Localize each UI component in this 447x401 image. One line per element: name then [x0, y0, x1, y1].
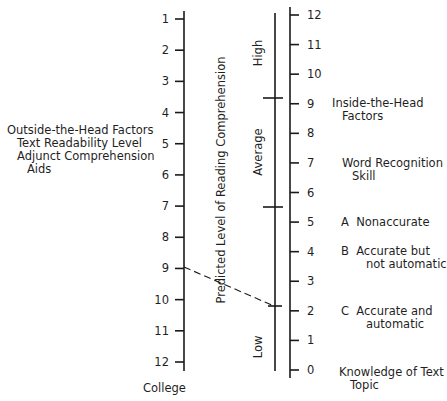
- band-high-label: High: [251, 38, 265, 68]
- level-b-text-1: Accurate but: [356, 244, 430, 258]
- level-b-line-2: not automatic: [366, 258, 447, 271]
- right-tick-label: 3: [307, 274, 314, 288]
- left-tick-label: 7: [162, 199, 169, 213]
- band-low-label: Low: [251, 332, 265, 362]
- middle-axis-title: Predicted Level of Reading Comprehension: [214, 55, 228, 305]
- right-tick-label: 5: [307, 215, 314, 229]
- left-tick-label: 3: [162, 74, 169, 88]
- left-tick-label: 12: [154, 355, 169, 369]
- left-tick-label: 9: [162, 261, 169, 275]
- left-tick-label: 11: [154, 324, 169, 338]
- level-a-letter: A: [341, 215, 349, 229]
- level-a-text: Nonaccurate: [356, 215, 429, 229]
- left-tick-label: 8: [162, 230, 169, 244]
- right-tick-label: 7: [307, 156, 314, 170]
- right-tick-label: 4: [307, 245, 314, 259]
- level-b-letter: B: [341, 244, 349, 258]
- level-c-line-2: automatic: [366, 318, 424, 331]
- right-tick-label: 0: [307, 363, 314, 377]
- right-title-line-2: Factors: [342, 110, 383, 123]
- level-c-text-1: Accurate and: [356, 304, 432, 318]
- right-tick-label: 1: [307, 333, 314, 347]
- left-tick-label: 5: [162, 137, 169, 151]
- example-dashed-line: [184, 267, 274, 306]
- right-tick-label: 11: [307, 38, 322, 52]
- level-c-letter: C: [341, 304, 349, 318]
- left-axis-ticks: 123456789101112: [154, 12, 184, 369]
- right-tick-label: 12: [307, 8, 322, 22]
- left-tick-label: 6: [162, 168, 169, 182]
- right-tick-label: 2: [307, 304, 314, 318]
- right-tick-label: 9: [307, 97, 314, 111]
- left-tick-label: 1: [162, 12, 169, 26]
- right-tick-label: 8: [307, 126, 314, 140]
- left-tick-label: 4: [162, 106, 169, 120]
- right-tick-label: 6: [307, 186, 314, 200]
- word-recognition-line-2: Skill: [352, 170, 376, 183]
- right-axis-ticks: 1211109876543210: [290, 8, 322, 377]
- left-tick-label: 10: [154, 293, 169, 307]
- knowledge-line-2: Topic: [350, 379, 379, 392]
- band-average-label: Average: [251, 127, 265, 177]
- left-title-line-4: Aids: [27, 163, 51, 176]
- left-bottom-label: College: [143, 382, 186, 395]
- left-tick-label: 2: [162, 43, 169, 57]
- right-tick-label: 10: [307, 67, 322, 81]
- level-a: A Nonaccurate: [341, 216, 429, 229]
